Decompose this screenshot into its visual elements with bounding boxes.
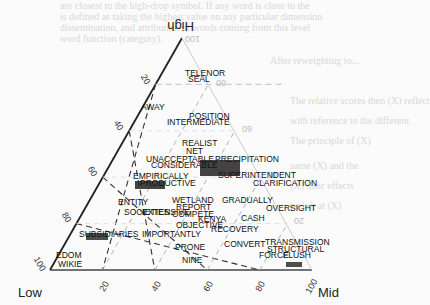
word-label: AWAY <box>141 102 165 112</box>
word-label: CONVERT <box>224 239 265 249</box>
word-label: PRECIPITATION <box>215 154 279 164</box>
word-label: CASH <box>241 213 265 223</box>
word-label: CONSIDERABLE <box>151 160 218 170</box>
tick-bottom-80: 80 <box>253 280 267 294</box>
word-label: NINE <box>182 255 203 265</box>
word-label: PRONE <box>175 242 206 252</box>
tick-bottom-20: 20 <box>97 280 111 294</box>
tick-right-20: 20 <box>294 216 304 226</box>
word-label: INTERMEDIATE <box>167 117 230 127</box>
tick-left-40: 40 <box>112 119 126 133</box>
tick-bottom-60: 60 <box>201 280 215 294</box>
word-label: OVERSIGHT <box>266 203 316 213</box>
word-label: FLUSH <box>283 250 311 260</box>
word-label: ENTITY <box>118 197 149 207</box>
word-label: SEAL <box>188 74 210 84</box>
word-label: PRODUCTIVE <box>140 178 196 188</box>
tick-right-60: 60 <box>242 124 252 134</box>
corner-label-low: Low <box>18 285 42 300</box>
word-label: WIKIE <box>58 259 82 269</box>
tick-bottom-40: 40 <box>149 280 163 294</box>
corner-label-high: High <box>167 19 194 34</box>
word-label: IMPORTANTLY <box>142 229 201 239</box>
word-label: SUBSIDIARIES <box>79 229 139 239</box>
tick-left-100: 100 <box>32 255 48 273</box>
tick-left-80: 80 <box>60 211 74 225</box>
word-label: CLARIFICATION <box>253 178 317 188</box>
tick-right-80: 80 <box>216 78 226 88</box>
word-label: RECOVERY <box>211 224 259 234</box>
corner-label-mid: Mid <box>318 285 339 300</box>
tick-right-100: 100 <box>185 34 200 44</box>
tick-left-60: 60 <box>86 165 100 179</box>
overlap-cluster <box>286 262 302 267</box>
tick-left-20: 20 <box>139 73 153 87</box>
